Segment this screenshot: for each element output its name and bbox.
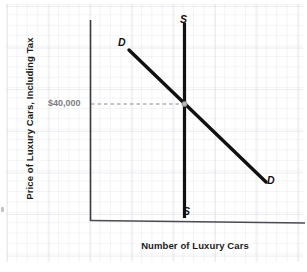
plot-area: [0, 0, 307, 272]
y-axis-tick-label-price: $40,000: [48, 98, 81, 108]
x-axis-title: Number of Luxury Cars: [90, 240, 300, 251]
supply-curve-label-top: S: [180, 13, 187, 25]
demand-curve-label-top: D: [118, 36, 126, 48]
x-axis: [90, 221, 305, 224]
equilibrium-point: [182, 101, 187, 106]
supply-curve-label-bottom: S: [183, 205, 190, 217]
y-axis-title: Price of Luxury Cars, Including Tax: [24, 29, 35, 209]
demand-curve: [129, 50, 266, 182]
supply-demand-figure: Price of Luxury Cars, Including Tax Numb…: [0, 0, 307, 272]
demand-curve-label-bottom: D: [267, 174, 275, 186]
